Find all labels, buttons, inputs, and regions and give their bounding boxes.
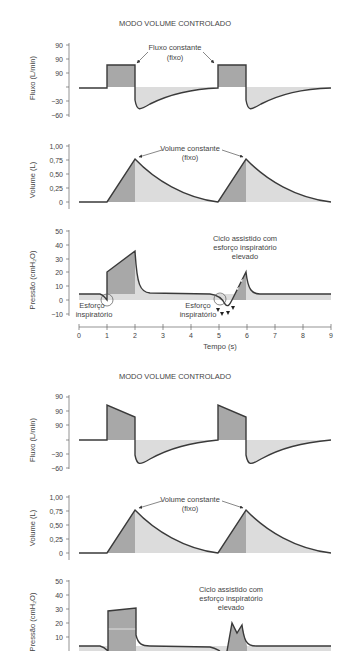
cycle-annotation-line2: esforço inspiratório [199,594,262,603]
y-tick: 0,50 [49,522,63,529]
bottom-pressure-subplot: Pressão (cmH₂O) 50 40 30 20 10 Ciclo ass… [28,578,331,651]
x-tick: 2 [133,332,137,339]
top-volume-ylabel: Volume (L) [28,161,37,198]
y-tick: 40 [55,592,63,599]
y-tick: 90 [55,42,63,49]
cycle-annotation-line3: elevado [218,603,244,612]
y-tick: −60 [51,112,63,119]
bottom-volume-subplot: Volume (L) 1,00 0,75 0,50 0,25 0 Volume … [28,494,331,560]
x-tick: 5 [217,332,221,339]
bottom-title: MODO VOLUME CONTROLADO [119,372,231,381]
y-tick: 0,75 [49,157,63,164]
y-tick: 50 [55,228,63,235]
effort-annotation-2b: inspiratório [180,310,217,319]
x-tick: 4 [189,332,193,339]
y-tick: 90 [55,393,63,400]
y-tick: −60 [51,465,63,472]
y-tick: 10 [55,634,63,641]
y-tick: 0 [59,550,63,557]
x-tick: 0 [77,332,81,339]
bottom-volume-ylabel: Volume (L) [28,509,37,546]
x-tick: 6 [245,332,249,339]
y-tick: 20 [55,269,63,276]
volume-annotation: Volume constante [160,495,220,504]
y-tick: −30 [51,451,63,458]
top-x-axis: 0 1 2 3 4 5 6 7 8 9 Tempo (s) [77,324,333,351]
y-tick: 10 [55,283,63,290]
top-pressure-ylabel: Pressão (cmH₂O) [28,250,37,309]
y-tick: 0,50 [49,171,63,178]
x-tick: 1 [105,332,109,339]
y-tick: −10 [51,311,63,318]
x-tick: 8 [301,332,305,339]
cycle-annotation-line2: esforço inspiratório [213,243,276,252]
y-tick: −30 [51,98,63,105]
volume-annotation-fixed: (fixo) [182,504,199,513]
y-tick: 0,75 [49,508,63,515]
y-tick: 90 [55,422,63,429]
y-tick: 0 [59,199,63,206]
y-tick: 90 [55,408,63,415]
cycle-annotation-line1: Ciclo assistido com [199,585,263,594]
y-tick: 30 [55,606,63,613]
ventilation-figure: MODO VOLUME CONTROLADO Fluxo (L/min) 90 … [0,0,349,651]
bottom-flow-ylabel: Fluxo (L/min) [28,418,37,462]
volume-annotation-fixed: (fixo) [182,153,199,162]
y-tick: 40 [55,242,63,249]
top-volume-subplot: Volume (L) 1,00 0,75 0,50 0,25 0 Volume … [28,143,331,209]
cycle-annotation-line1: Ciclo assistido com [213,234,277,243]
x-tick: 7 [273,332,277,339]
bottom-flow-subplot: Fluxo (L/min) 90 90 90 −30 −60 [28,393,331,472]
y-tick: 0,25 [49,185,63,192]
y-tick: 30 [55,256,63,263]
x-tick: 3 [161,332,165,339]
top-flow-subplot: Fluxo (L/min) 90 90 90 −30 −60 Fluxo con… [28,42,331,119]
y-tick: 0,25 [49,536,63,543]
flow-annotation-fixed: (fixo) [167,53,184,62]
x-axis-label: Tempo (s) [203,342,237,351]
effort-annotation-1: Esforço [79,301,104,310]
effort-annotation-2: Esforço [185,301,210,310]
y-tick: 1,00 [49,143,63,150]
y-tick: 20 [55,620,63,627]
top-flow-ylabel: Fluxo (L/min) [28,56,37,100]
top-title: MODO VOLUME CONTROLADO [119,19,231,28]
top-pressure-subplot: Pressão (cmH₂O) 50 40 30 20 10 0 −10 [28,228,331,319]
effort-annotation-1b: inspiratório [76,310,113,319]
cycle-annotation-line3: elevado [232,252,258,261]
y-tick: 0 [59,297,63,304]
y-tick: 90 [55,56,63,63]
flow-annotation: Fluxo constante [149,43,202,52]
y-tick: 1,00 [49,494,63,501]
y-tick: 50 [55,578,63,585]
volume-annotation: Volume constante [160,144,220,153]
y-tick: 90 [55,70,63,77]
x-tick: 9 [329,332,333,339]
bottom-pressure-ylabel: Pressão (cmH₂O) [28,592,37,651]
